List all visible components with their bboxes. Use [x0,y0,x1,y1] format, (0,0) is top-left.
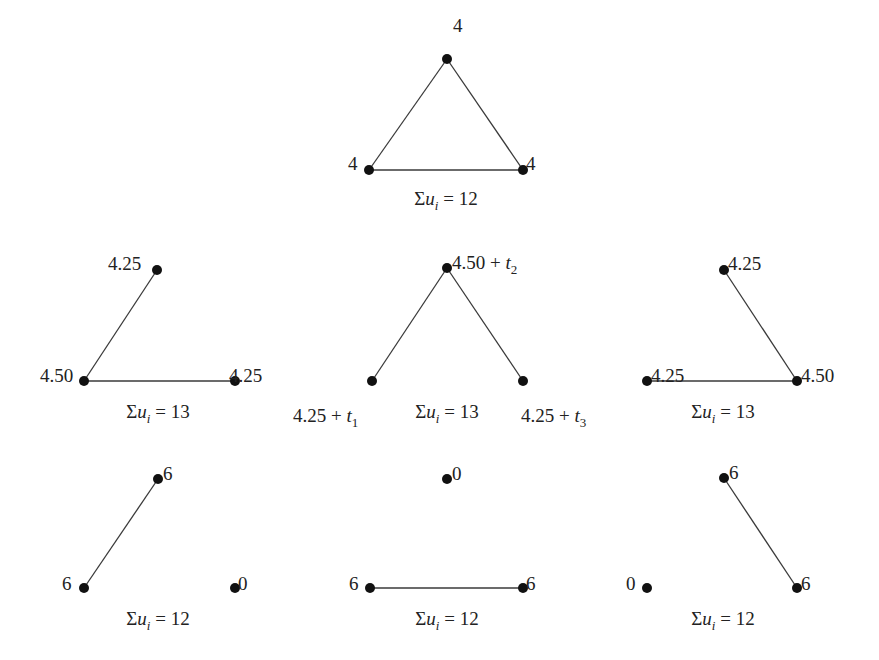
edge [372,268,447,381]
node-payoff-label: 6 [801,573,811,594]
graph-complete-graph: 444Σui = 12 [348,15,536,213]
node-payoff-label: 6 [349,573,359,594]
graph-two-edge-graph-center: 4.50 + t24.25 + t14.25 + t3Σui = 13 [293,252,586,430]
node-payoff-label: 4.25 [728,253,761,274]
node-payoff-label: 4 [453,15,463,36]
node [152,265,162,275]
payoff-sum-caption: Σui = 12 [126,608,189,633]
node-payoff-label: 4 [348,153,358,174]
node-payoff-label: 4.50 [801,365,834,386]
payoff-sum-caption: Σui = 12 [414,188,477,213]
node-payoff-label: 4.50 + t2 [452,252,517,277]
edge [447,268,523,381]
node-payoff-label: 0 [452,463,462,484]
network-payoff-diagram: 444Σui = 124.254.504.25Σui = 134.50 + t2… [0,0,879,660]
edge [369,59,447,170]
payoff-sum-caption: Σui = 12 [691,608,754,633]
node-payoff-label: 0 [238,573,248,594]
graph-two-edge-graph-right: 4.254.254.50Σui = 13 [642,253,834,426]
node [642,583,652,593]
payoff-sum-caption: Σui = 13 [691,401,754,426]
node-payoff-label: 6 [62,573,72,594]
node-payoff-label: 4.25 [651,365,684,386]
node [442,54,452,64]
node [364,165,374,175]
node [442,263,452,273]
payoff-sum-caption: Σui = 12 [415,608,478,633]
node-payoff-label: 4.25 [229,365,262,386]
graph-one-edge-graph-center: 066Σui = 12 [349,463,536,633]
graph-one-edge-graph-left: 660Σui = 12 [62,463,248,633]
node [367,376,377,386]
node [79,583,89,593]
node [442,474,452,484]
node-payoff-label: 0 [626,573,636,594]
node-payoff-label: 6 [526,573,536,594]
graph-two-edge-graph-left: 4.254.504.25Σui = 13 [40,253,262,426]
node-payoff-label: 6 [163,463,173,484]
node-payoff-label: 4.25 [108,253,141,274]
node [79,376,89,386]
graph-one-edge-graph-right: 606Σui = 12 [626,462,811,633]
node-payoff-label: 4 [526,153,536,174]
node-payoff-label: 4.25 + t3 [521,405,586,430]
edge [447,59,523,170]
node [153,474,163,484]
node-payoff-label: 4.50 [40,365,73,386]
node [365,583,375,593]
edge [724,478,797,588]
edge [84,479,158,588]
payoff-sum-caption: Σui = 13 [126,401,189,426]
node-payoff-label: 4.25 + t1 [293,405,358,430]
node-payoff-label: 6 [729,462,739,483]
node [719,473,729,483]
payoff-sum-caption: Σui = 13 [415,401,478,426]
edge [84,270,157,381]
edge [724,270,797,381]
node [518,376,528,386]
